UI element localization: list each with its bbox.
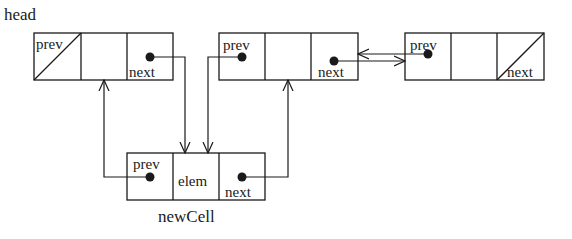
prev-field-label: prev [410,37,437,53]
next-field-label: next [507,64,534,80]
prev-field-label: prev [36,36,63,52]
head-label: head [4,5,37,24]
edge-cell2-prev-to-newcell [208,57,242,153]
prev-field-label: prev [223,37,250,53]
cell-3: prev next [405,33,544,80]
linked-list-diagram: head prev next prev next prev next prev … [0,0,572,239]
next-field-label: next [129,64,156,80]
elem-field-label: elem [178,173,207,189]
edge-cell1-next-to-newcell [150,57,185,153]
next-field-label: next [225,184,252,200]
next-field-label: next [318,64,345,80]
prev-field-label: prev [133,156,160,172]
new-cell-label: newCell [158,207,215,226]
